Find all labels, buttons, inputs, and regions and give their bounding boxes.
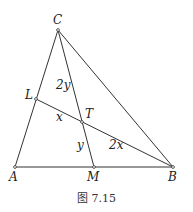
segment-CM <box>58 30 94 167</box>
point-A <box>14 166 17 169</box>
label-M: M <box>86 170 100 184</box>
label-L: L <box>24 88 33 102</box>
point-C <box>57 29 60 32</box>
figure-caption: 图 7.15 <box>77 192 116 205</box>
label-B: B <box>167 170 177 184</box>
point-T <box>81 121 84 124</box>
label-segment-LT: x <box>56 110 63 124</box>
point-B <box>172 166 175 169</box>
label-segment-CT: 2y <box>55 78 71 92</box>
geometry-figure: C L T A M B 2y x y 2x 图 7.15 <box>0 0 193 212</box>
label-C: C <box>53 13 62 27</box>
label-segment-TM: y <box>76 138 84 152</box>
label-T: T <box>85 107 94 121</box>
label-segment-TB: 2x <box>108 138 124 152</box>
label-A: A <box>8 170 18 184</box>
point-M <box>93 166 96 169</box>
point-L <box>35 98 38 101</box>
